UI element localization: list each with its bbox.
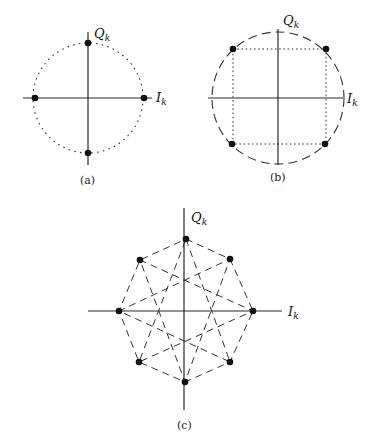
symbol-point bbox=[250, 308, 257, 315]
panel-caption: (a) bbox=[80, 174, 95, 187]
symbol-point bbox=[227, 359, 234, 366]
panel-b: Qk Ik (b) bbox=[208, 13, 358, 184]
q-axis-label: Qk bbox=[191, 210, 207, 227]
symbol-point bbox=[182, 379, 189, 386]
symbol-point bbox=[183, 236, 190, 243]
symbol-point bbox=[229, 141, 236, 148]
symbol-point bbox=[85, 40, 92, 47]
dotted-square bbox=[233, 49, 326, 144]
panel-c: Qk Ik (c) bbox=[88, 208, 299, 432]
symbol-point bbox=[230, 46, 237, 53]
constellation-figure: Qk Ik (a) Qk Ik (b) Qk Ik (c) bbox=[0, 0, 369, 443]
q-axis-label: Qk bbox=[283, 13, 299, 30]
symbol-point bbox=[322, 141, 329, 148]
panel-caption: (b) bbox=[270, 171, 286, 184]
symbol-point bbox=[116, 308, 123, 315]
symbol-point bbox=[32, 95, 39, 102]
i-axis-label: Ik bbox=[155, 90, 167, 107]
panel-a: Qk Ik (a) bbox=[23, 26, 167, 187]
symbol-point bbox=[323, 46, 330, 53]
q-axis-label: Qk bbox=[94, 26, 110, 43]
i-axis-label: Ik bbox=[287, 304, 299, 321]
i-axis-label: Ik bbox=[346, 91, 358, 108]
panel-caption: (c) bbox=[177, 419, 192, 432]
symbol-point bbox=[227, 256, 234, 263]
symbol-point bbox=[136, 359, 143, 366]
symbol-point bbox=[137, 257, 144, 264]
symbol-point bbox=[141, 95, 148, 102]
symbol-point bbox=[85, 150, 92, 157]
